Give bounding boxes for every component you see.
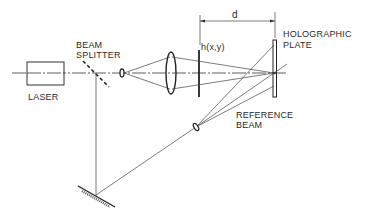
object-label: h(x,y) [201, 42, 225, 52]
mirror [78, 186, 115, 207]
laser-label: LASER [28, 92, 59, 102]
reference-label-1: REFERENCE [236, 110, 293, 120]
ray-upper [124, 57, 170, 73]
beam-splitter-label-2: SPLITTER [76, 50, 121, 60]
holographic-plate [273, 40, 277, 97]
reference-label-2: BEAM [236, 120, 262, 130]
ray-lower [124, 73, 170, 89]
reference-path [96, 127, 196, 195]
distance-label: d [232, 9, 238, 20]
plate-label-2: PLATE [283, 40, 312, 50]
plate-label-1: HOLOGRAPHIC [283, 29, 352, 39]
converging-ray-lower [172, 73, 274, 89]
holography-diagram: LASER BEAM SPLITTER h(x,y) d HOLOGRAPHIC… [0, 0, 365, 216]
laser-box [27, 62, 64, 85]
beam-splitter-label-1: BEAM [76, 40, 102, 50]
expander-lens [120, 69, 124, 77]
converging-ray-upper [172, 57, 274, 73]
